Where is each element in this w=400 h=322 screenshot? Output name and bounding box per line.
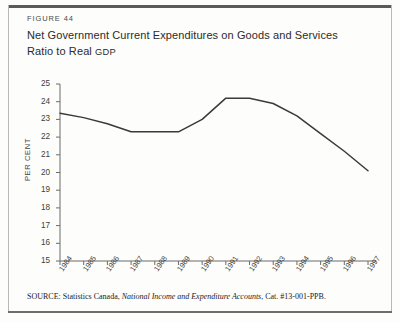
y-axis-tick-label: 25 xyxy=(28,79,50,88)
source-publication: National Income and Expenditure Accounts xyxy=(122,292,262,301)
y-axis-tick-label: 15 xyxy=(28,256,50,265)
source-label: SOURCE: xyxy=(27,292,61,301)
figure-container: FIGURE 44 Net Government Current Expendi… xyxy=(0,0,400,322)
source-note: SOURCE: Statistics Canada, National Inco… xyxy=(27,292,326,301)
y-axis-tick-label: 17 xyxy=(28,221,50,230)
y-axis-tick-label: 21 xyxy=(28,150,50,159)
y-axis-tick-label: 18 xyxy=(28,203,50,212)
source-catalogue: , Cat. #13-001-PPB. xyxy=(261,292,326,301)
y-axis-tick-label: 16 xyxy=(28,238,50,247)
source-agency: Statistics Canada, xyxy=(63,292,120,301)
data-series-line xyxy=(60,98,368,171)
line-chart-svg xyxy=(0,0,400,300)
y-axis-tick-label: 22 xyxy=(28,132,50,141)
chart-plot-area: PER CENT 2524232221201918171615198419851… xyxy=(0,0,400,300)
y-axis-tick-label: 23 xyxy=(28,114,50,123)
y-axis-tick-label: 20 xyxy=(28,168,50,177)
bottom-rule xyxy=(8,311,392,313)
y-axis-tick-label: 19 xyxy=(28,185,50,194)
y-axis-tick-label: 24 xyxy=(28,97,50,106)
